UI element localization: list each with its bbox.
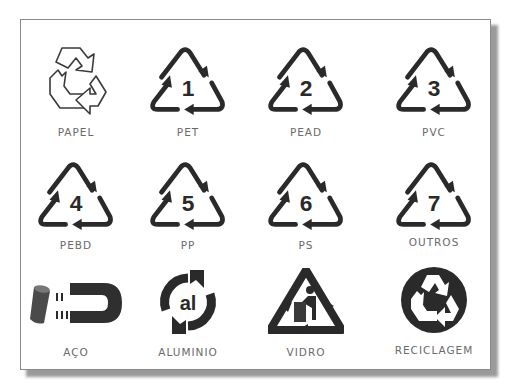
symbol-pet: 1 xyxy=(133,45,243,117)
resin-triangle-icon: 2 xyxy=(268,45,344,117)
label-outros: OUTROS xyxy=(364,236,504,248)
resin-triangle-icon: 1 xyxy=(150,45,226,117)
svg-text:7: 7 xyxy=(428,190,441,216)
glass-bin-triangle-icon xyxy=(268,268,344,334)
aluminium-cycle-icon: al xyxy=(156,270,220,334)
svg-text:al: al xyxy=(180,292,197,314)
label-pead: PEAD xyxy=(236,126,376,138)
magnet-can-icon xyxy=(26,277,126,327)
resin-triangle-icon: 5 xyxy=(150,160,226,232)
svg-text:5: 5 xyxy=(182,190,195,216)
label-vidro: VIDRO xyxy=(236,346,376,358)
recycle-outline-icon xyxy=(36,42,116,120)
symbol-papel xyxy=(21,42,131,120)
svg-text:6: 6 xyxy=(300,190,313,216)
symbol-pebd: 4 xyxy=(21,160,131,232)
symbol-vidro xyxy=(251,268,361,334)
label-pvc: PVC xyxy=(364,126,504,138)
symbol-aluminio: al xyxy=(133,270,243,334)
resin-triangle-icon: 6 xyxy=(268,160,344,232)
label-reciclagem: RECICLAGEM xyxy=(364,344,504,356)
resin-triangle-icon: 3 xyxy=(396,45,472,117)
symbol-pead: 2 xyxy=(251,45,361,117)
symbol-reciclagem xyxy=(379,265,489,335)
svg-text:3: 3 xyxy=(428,75,441,101)
symbol-aco xyxy=(21,277,131,327)
resin-triangle-icon: 7 xyxy=(396,160,472,232)
svg-text:1: 1 xyxy=(182,75,195,101)
symbol-ps: 6 xyxy=(251,160,361,232)
resin-triangle-icon: 4 xyxy=(38,160,114,232)
symbol-outros: 7 xyxy=(379,160,489,232)
svg-text:4: 4 xyxy=(70,190,83,216)
symbol-pvc: 3 xyxy=(379,45,489,117)
svg-text:2: 2 xyxy=(300,75,313,101)
recycle-circle-icon xyxy=(399,265,469,335)
label-ps: PS xyxy=(236,239,376,251)
symbol-pp: 5 xyxy=(133,160,243,232)
